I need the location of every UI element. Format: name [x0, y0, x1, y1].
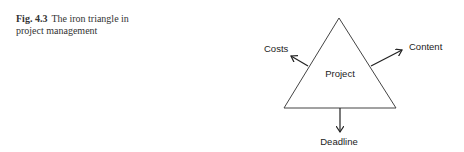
iron-triangle-diagram: Costs Content Project Deadline [0, 0, 464, 152]
triangle-shape [284, 18, 396, 108]
project-label: Project [325, 68, 355, 79]
costs-label: Costs [264, 43, 289, 54]
content-label: Content [409, 41, 443, 52]
costs-arrow [291, 56, 308, 66]
content-arrow [371, 50, 402, 66]
deadline-label: Deadline [320, 136, 358, 147]
